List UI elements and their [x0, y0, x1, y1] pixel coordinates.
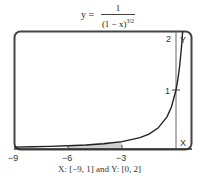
window-range-caption: X: [−9, 1] and Y: [0, 2] [0, 164, 199, 174]
y-tick-label: 2 [166, 34, 171, 44]
x-axis-label: X [180, 138, 186, 148]
x-tick-label: −9 [8, 153, 18, 163]
function-curve [14, 31, 183, 147]
y-axis-label: Y [180, 35, 186, 45]
x-tick-label: −6 [62, 153, 72, 163]
y-tick-label: 1 [165, 86, 170, 96]
graph-window: −9 −6 −3 1 2 Y X [0, 0, 199, 179]
x-tick-label: −3 [116, 153, 126, 163]
